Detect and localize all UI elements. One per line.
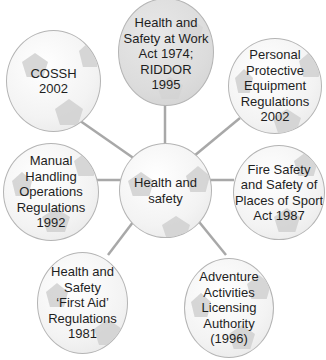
node-first-aid-regulations: Health and Safety ‘First Aid’ Regulation…	[37, 252, 128, 354]
node-label: Personal Protective Equipment Regulation…	[229, 39, 321, 133]
node-label: Fire Safety and Safety of Places of Spor…	[234, 146, 324, 239]
node-label: Manual Handling Operations Regulations 1…	[4, 144, 98, 240]
node-cossh: COSSH 2002	[6, 30, 101, 132]
node-manual-handling: Manual Handling Operations Regulations 1…	[3, 143, 99, 241]
node-ppe-regulations: Personal Protective Equipment Regulation…	[228, 38, 322, 134]
node-label: Health and Safety ‘First Aid’ Regulation…	[38, 253, 127, 353]
node-fire-safety: Fire Safety and Safety of Places of Spor…	[233, 145, 325, 240]
node-health-safety-at-work-act: Health and Safety at Work Act 1974; RIDD…	[118, 0, 214, 106]
center-label: Health and safety	[120, 144, 211, 237]
node-label: COSSH 2002	[7, 31, 100, 131]
node-label: Health and Safety at Work Act 1974; RIDD…	[119, 0, 213, 106]
node-label: Adventure Activities Licensing Authority…	[185, 259, 273, 357]
center-node-health-and-safety: Health and safety	[119, 143, 212, 238]
node-adventure-activities: Adventure Activities Licensing Authority…	[184, 258, 274, 358]
